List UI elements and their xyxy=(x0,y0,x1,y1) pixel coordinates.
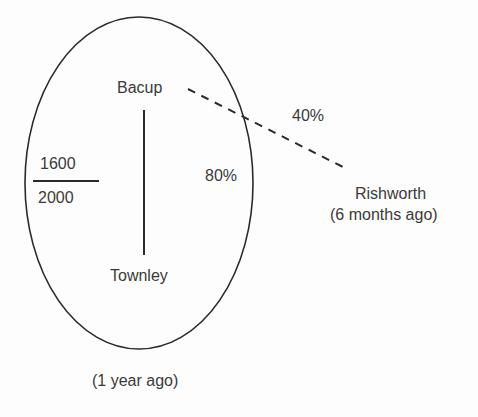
node-townley: Townley xyxy=(110,268,168,284)
node-bacup: Bacup xyxy=(117,80,162,96)
bacup-rishworth-dashed-line xyxy=(188,89,345,168)
fraction-numerator: 1600 xyxy=(40,156,76,172)
fraction-denominator: 2000 xyxy=(38,190,74,206)
ellipse-caption: (1 year ago) xyxy=(92,373,178,389)
rishworth-time-label: (6 months ago) xyxy=(330,207,438,223)
edge-label-80: 80% xyxy=(205,168,237,184)
node-rishworth: Rishworth xyxy=(355,186,426,202)
edge-label-40: 40% xyxy=(292,108,324,124)
